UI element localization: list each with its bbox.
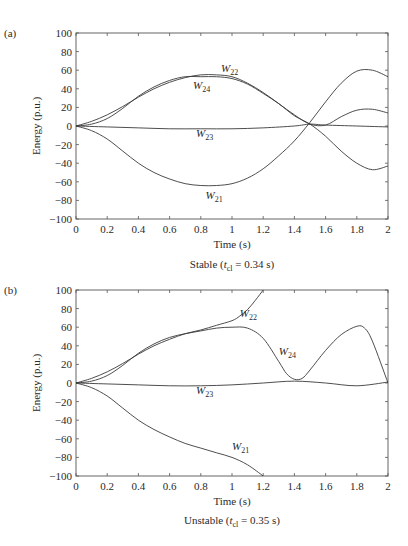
x-tick-label: 0.6 bbox=[163, 223, 177, 235]
y-tick-label: −60 bbox=[55, 433, 73, 445]
y-tick-label: −40 bbox=[55, 157, 73, 169]
x-tick-label: 0.8 bbox=[194, 223, 208, 235]
x-tick-label: 1 bbox=[229, 480, 235, 492]
series-label-w24: W24 bbox=[193, 79, 210, 94]
y-axis-label: Energy (p.u.) bbox=[30, 97, 43, 155]
x-tick-label: 0.6 bbox=[163, 480, 177, 492]
y-tick-label: −80 bbox=[55, 194, 73, 206]
series-label-w24: W24 bbox=[279, 345, 296, 360]
y-tick-label: −80 bbox=[55, 451, 73, 463]
series-label-w23: W23 bbox=[196, 384, 213, 399]
series-line-w24 bbox=[76, 326, 388, 383]
y-tick-label: 100 bbox=[56, 284, 73, 296]
x-tick-label: 0 bbox=[73, 223, 79, 235]
y-tick-label: 80 bbox=[61, 303, 73, 315]
x-tick-label: 0.8 bbox=[194, 480, 208, 492]
panel-label: (a) bbox=[4, 27, 17, 40]
series-line-w22 bbox=[76, 75, 388, 126]
y-tick-label: 40 bbox=[61, 83, 73, 95]
figure: (a)00.20.40.60.811.21.41.61.82−100−80−60… bbox=[0, 0, 408, 546]
series-line-w21 bbox=[76, 383, 263, 476]
panel-label: (b) bbox=[4, 284, 17, 297]
x-tick-label: 0.2 bbox=[100, 480, 114, 492]
y-tick-label: 0 bbox=[67, 120, 73, 132]
panel-caption: Stable (tcl = 0.34 s) bbox=[190, 258, 275, 273]
panel-a: (a)00.20.40.60.811.21.41.61.82−100−80−60… bbox=[4, 27, 391, 273]
x-axis-label: Time (s) bbox=[213, 495, 251, 508]
x-tick-label: 1.4 bbox=[288, 480, 302, 492]
panel-caption: Unstable (tcl = 0.35 s) bbox=[184, 514, 280, 529]
series-label-w22: W22 bbox=[240, 307, 257, 322]
y-tick-label: 0 bbox=[67, 377, 73, 389]
x-tick-label: 1.2 bbox=[256, 480, 270, 492]
series-line-w24 bbox=[76, 76, 388, 169]
series-label-w23: W23 bbox=[196, 127, 213, 142]
y-tick-label: 100 bbox=[56, 27, 73, 39]
x-tick-label: 1.4 bbox=[288, 223, 302, 235]
series-line-w22 bbox=[76, 290, 263, 383]
x-tick-label: 1.6 bbox=[319, 480, 333, 492]
y-tick-label: −20 bbox=[55, 139, 73, 151]
x-tick-label: 1 bbox=[229, 223, 235, 235]
x-tick-label: 0.4 bbox=[132, 480, 146, 492]
x-tick-label: 1.6 bbox=[319, 223, 333, 235]
y-tick-label: 20 bbox=[61, 101, 73, 113]
y-tick-label: −20 bbox=[55, 396, 73, 408]
x-tick-label: 0.4 bbox=[132, 223, 146, 235]
series-label-w21: W21 bbox=[232, 440, 249, 455]
y-tick-label: 80 bbox=[61, 46, 73, 58]
series-line-w23 bbox=[76, 381, 388, 386]
y-tick-label: −40 bbox=[55, 414, 73, 426]
x-axis-label: Time (s) bbox=[213, 238, 251, 251]
panel-b: (b)00.20.40.60.811.21.41.61.82−100−80−60… bbox=[4, 284, 391, 529]
y-tick-label: 60 bbox=[61, 64, 73, 76]
y-tick-label: −60 bbox=[55, 176, 73, 188]
x-tick-label: 0 bbox=[73, 480, 79, 492]
y-tick-label: 20 bbox=[61, 358, 73, 370]
y-axis-label: Energy (p.u.) bbox=[30, 354, 43, 412]
y-tick-label: −100 bbox=[49, 213, 72, 225]
series-label-w21: W21 bbox=[205, 189, 222, 204]
series-label-w22: W22 bbox=[221, 62, 238, 77]
x-tick-label: 1.2 bbox=[256, 223, 270, 235]
x-tick-label: 1.8 bbox=[350, 223, 364, 235]
x-tick-label: 2 bbox=[385, 480, 391, 492]
series-line-w23 bbox=[76, 124, 388, 129]
y-tick-label: 40 bbox=[61, 340, 73, 352]
y-tick-label: −100 bbox=[49, 470, 72, 482]
plot-area bbox=[76, 33, 388, 219]
y-tick-label: 60 bbox=[61, 321, 73, 333]
x-tick-label: 0.2 bbox=[100, 223, 114, 235]
x-tick-label: 2 bbox=[385, 223, 391, 235]
x-tick-label: 1.8 bbox=[350, 480, 364, 492]
